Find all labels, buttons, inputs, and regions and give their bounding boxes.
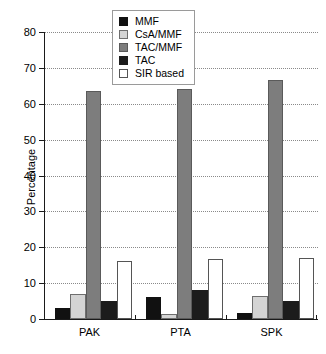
legend-swatch-icon [119,69,128,78]
legend-item-label: CsA/MMF [135,29,182,40]
y-axis-tick [39,211,44,212]
legend-swatch-icon [119,56,128,65]
bar-tac-mmf-spk [268,80,284,319]
bar-mmf-pak [55,308,71,319]
y-axis-tick [39,104,44,105]
y-axis-tick-label: 30 [24,206,36,217]
legend-item-label: MMF [135,16,159,27]
y-axis-tick-label: 40 [24,170,36,181]
bar-sir-based-pak [117,261,133,319]
legend-swatch-icon [119,17,128,26]
bar-sir-based-spk [299,258,315,319]
bar-csa-mmf-spk [252,296,268,319]
legend-item-csa-mmf: CsA/MMF [119,28,184,41]
legend-item-tac: TAC [119,54,184,67]
y-axis-tick-label: 50 [24,134,36,145]
legend-item-mmf: MMF [119,15,184,28]
legend-item-sir-based: SIR based [119,67,184,80]
legend-item-label: SIR based [135,68,184,79]
legend-item-label: TAC [135,55,155,66]
legend-item-tac-mmf: TAC/MMF [119,41,184,54]
x-axis-label-spk: SPK [260,326,282,338]
y-axis-tick [39,176,44,177]
y-axis-tick-label: 0 [30,314,36,325]
bar-tac-pta [192,290,208,319]
legend-item-label: TAC/MMF [135,42,182,53]
y-axis-tick-label: 60 [24,98,36,109]
x-axis-label-pak: PAK [79,326,100,338]
bar-tac-mmf-pak [86,91,102,319]
bar-sir-based-pta [208,259,224,319]
y-axis-tick [39,283,44,284]
bar-mmf-spk [237,313,253,319]
y-axis-tick [39,247,44,248]
bar-tac-spk [283,301,299,319]
legend-swatch-icon [119,43,128,52]
y-axis-tick [39,140,44,141]
y-axis-tick-label: 80 [24,27,36,38]
y-axis-tick [39,319,44,320]
x-axis-group-tick [135,315,136,320]
bar-mmf-pta [146,297,162,319]
bar-tac-pak [101,301,117,319]
y-axis-tick-label: 20 [24,242,36,253]
bar-csa-mmf-pta [161,314,177,319]
bar-chart: Percentage 01020304050607080 PAKPTASPK M… [0,0,326,354]
bar-tac-mmf-pta [177,89,193,319]
x-axis-label-pta: PTA [170,326,191,338]
legend: MMFCsA/MMFTAC/MMFTACSIR based [112,10,195,85]
legend-swatch-icon [119,30,128,39]
y-axis-tick [39,32,44,33]
y-axis-tick-label: 70 [24,62,36,73]
bar-csa-mmf-pak [70,294,86,319]
y-axis-tick [39,68,44,69]
x-axis-group-tick [226,315,227,320]
y-axis-tick-label: 10 [24,278,36,289]
x-axis-end-tick [316,315,317,320]
